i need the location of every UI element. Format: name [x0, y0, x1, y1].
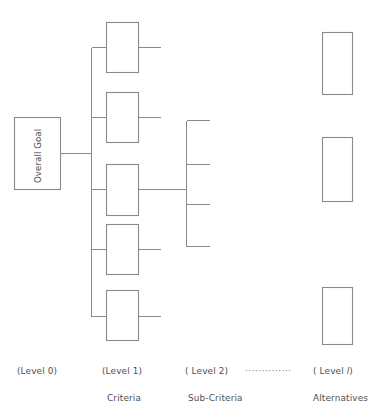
alternative-box-1[interactable] [323, 33, 353, 95]
criteria-box-5[interactable] [107, 291, 139, 341]
hierarchy-canvas [0, 0, 392, 420]
level-l-suffix: ) [349, 366, 353, 376]
level-l-prefix: ( Level [313, 366, 347, 376]
level-2-label: ( Level 2) [185, 366, 228, 376]
criteria-caption: Criteria [107, 393, 141, 403]
overall-goal-label: Overall Goal [33, 129, 43, 183]
criteria-box-1[interactable] [107, 23, 139, 73]
criteria-box-4[interactable] [107, 225, 139, 275]
level-l-label: ( Level l) [313, 366, 353, 376]
criteria-box-3[interactable] [107, 165, 139, 216]
subcriteria-caption: Sub-Criteria [188, 393, 243, 403]
alternative-box-2[interactable] [323, 138, 353, 202]
alternative-box-3[interactable] [323, 288, 353, 345]
hierarchy-diagram: Overall Goal (Level 0) (Level 1) ( Level… [0, 0, 392, 420]
level-ellipsis-label: ·············· [245, 366, 292, 376]
level-1-label: (Level 1) [102, 366, 142, 376]
criteria-box-2[interactable] [107, 93, 139, 143]
alternatives-caption: Alternatives [313, 393, 368, 403]
level-0-label: (Level 0) [17, 366, 57, 376]
